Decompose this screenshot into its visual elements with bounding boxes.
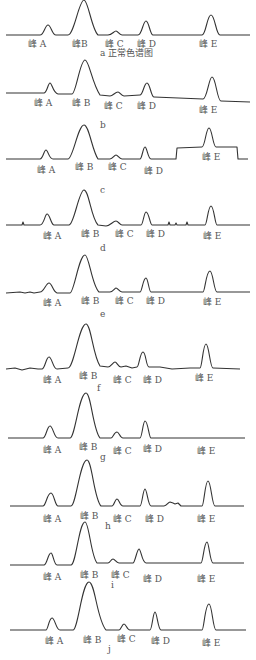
peak-label: 峰 E (199, 105, 217, 115)
peak-label: 峰 D (146, 229, 165, 239)
peak-label: 峰 D (146, 296, 165, 306)
peak-label: 峰 A (43, 514, 61, 524)
peak-label: 峰 A (43, 445, 61, 455)
panel-caption: g (100, 452, 106, 462)
panel-caption: i (111, 580, 114, 590)
peak-label: 峰 D (137, 101, 156, 111)
peak-label: 峰 E (197, 514, 215, 524)
chromatogram-a (6, 0, 250, 35)
peak-label: 峰 D (143, 375, 162, 385)
peak-label: 峰 B (81, 296, 99, 306)
panel-caption: j (108, 644, 111, 654)
chromatogram-d (6, 190, 250, 226)
peak-label: 峰 C (111, 570, 130, 580)
peak-label: 峰 C (117, 634, 136, 644)
peak-label: 峰 B (80, 570, 98, 580)
chromatogram-f (6, 324, 240, 370)
panel-caption: h (105, 521, 111, 531)
peak-label: 峰 E (203, 297, 221, 307)
panel-caption: c (100, 185, 105, 195)
peak-label: 峰 B (75, 162, 93, 172)
peak-label: 峰 A (37, 165, 55, 175)
panel-caption: f (97, 383, 100, 393)
panel-caption: d (100, 243, 106, 253)
peak-label: 峰 A (45, 636, 63, 646)
peak-label: 峰 B (72, 98, 90, 108)
peak-label: 峰B (72, 39, 88, 49)
peak-label: 峰 C (113, 375, 132, 385)
panel-caption: e (100, 309, 105, 319)
peak-label: 峰 B (80, 511, 98, 521)
panel-caption: b (100, 120, 106, 130)
peak-label: 峰 E (202, 638, 220, 648)
peak-label: 峰 E (203, 231, 221, 241)
peak-label: 峰 D (144, 166, 163, 176)
peak-label: 峰 A (43, 231, 61, 241)
peak-label: 峰 C (115, 229, 134, 239)
peak-label: 峰 E (197, 574, 215, 584)
peak-label: 峰 D (145, 514, 164, 524)
panel-caption: a 正常色谱图 (100, 48, 153, 58)
peak-label: 峰 A (43, 298, 61, 308)
peak-label: 峰 B (81, 229, 99, 239)
peak-label: 峰 B (79, 371, 97, 381)
peak-label: 峰 D (143, 574, 162, 584)
peak-label: 峰 A (28, 39, 46, 49)
peak-label: 峰 A (34, 98, 52, 108)
peak-label: 峰 E (197, 446, 215, 456)
chromatogram-j (10, 582, 246, 630)
peak-label: 峰 C (115, 296, 134, 306)
peak-label: 峰 A (43, 375, 61, 385)
peak-label: 峰 E (195, 373, 213, 383)
peak-label: 峰 E (202, 152, 220, 162)
chromatogram-g (8, 393, 245, 438)
peak-label: 峰 B (79, 442, 97, 452)
peak-label: 峰 C (108, 162, 127, 172)
peak-label: 峰 B (83, 635, 101, 645)
chromatogram-b (6, 60, 250, 102)
peak-label: 峰 C (113, 514, 132, 524)
peak-label: 峰 C (113, 446, 132, 456)
peak-label: 峰 A (43, 572, 61, 582)
peak-label: 峰 D (151, 636, 170, 646)
peak-label: 峰 E (199, 39, 217, 49)
chromatogram-h (10, 460, 244, 506)
peak-label: 峰 C (104, 101, 123, 111)
peak-label: 峰 D (143, 444, 162, 454)
chromatogram-i (10, 522, 244, 565)
chromatogram-e (6, 255, 250, 293)
